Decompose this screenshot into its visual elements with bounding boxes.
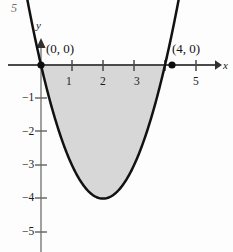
point-label-origin: (0, 0) xyxy=(46,42,74,55)
y-tick-label-minus-5: −5 xyxy=(22,226,34,238)
x-axis-arrow-icon xyxy=(215,60,222,70)
point-label-root-four: (4, 0) xyxy=(172,42,200,55)
y-tick-label-minus-1: −1 xyxy=(22,92,34,104)
y-axis-label: y xyxy=(36,20,41,31)
figure-corner-number: 5 xyxy=(11,2,17,14)
root-marker-origin xyxy=(37,61,44,68)
x-axis-label: x xyxy=(223,60,228,71)
x-tick-label-1: 1 xyxy=(66,76,72,88)
y-tick-label-minus-4: −4 xyxy=(22,192,34,204)
parabola-plot xyxy=(0,0,233,252)
figure-container: 5 y x (0, 0) (4, 0) 1 2 3 5 −1 −2 −3 −4 … xyxy=(0,0,233,252)
y-tick-label-minus-3: −3 xyxy=(22,159,34,171)
x-tick-label-5: 5 xyxy=(193,76,199,88)
y-tick-label-minus-2: −2 xyxy=(22,126,34,138)
root-marker-four xyxy=(168,61,175,68)
x-tick-label-3: 3 xyxy=(134,76,140,88)
x-tick-label-2: 2 xyxy=(100,76,106,88)
